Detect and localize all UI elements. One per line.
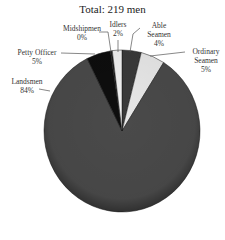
leader-ordinary-seamen <box>150 52 185 56</box>
label-petty-officer: Petty Officer 5% <box>14 48 60 66</box>
label-name: Seamen <box>188 56 224 65</box>
label-pct: 5% <box>188 65 224 74</box>
label-able-seamen: Able Seamen 4% <box>144 21 174 48</box>
label-name: Seamen <box>144 30 174 39</box>
pie-shading <box>44 50 200 212</box>
label-idlers: Idlers 2% <box>106 20 130 38</box>
label-name: Able <box>144 21 174 30</box>
label-midshipmen: Midshipmen 0% <box>61 24 103 42</box>
label-pct: 0% <box>61 33 103 42</box>
label-name: Petty Officer <box>14 48 60 57</box>
label-pct: 5% <box>14 57 60 66</box>
leader-able-seamen <box>130 28 140 52</box>
label-pct: 2% <box>106 29 130 38</box>
leader-petty-officer <box>61 53 95 54</box>
label-pct: 4% <box>144 39 174 48</box>
label-name: Ordinary <box>188 47 224 56</box>
label-name: Landsmen <box>10 77 44 86</box>
label-pct: 84% <box>10 86 44 95</box>
label-name: Idlers <box>106 20 130 29</box>
label-landsmen: Landsmen 84% <box>10 77 44 95</box>
label-ordinary-seamen: Ordinary Seamen 5% <box>188 47 224 74</box>
label-name: Midshipmen <box>61 24 103 33</box>
